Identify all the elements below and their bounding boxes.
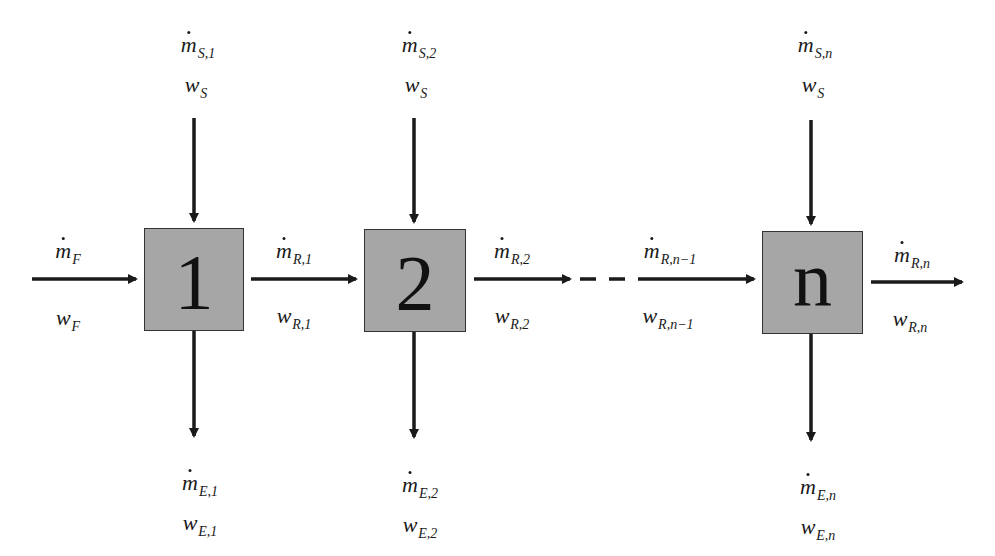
solvent-mass-flow-label-n: mS,n bbox=[798, 34, 832, 56]
extract-mass-flow-label-n: mE,n bbox=[800, 476, 836, 498]
raffinate-fraction-label-n-minus-1: wR,n−1 bbox=[642, 305, 693, 327]
solvent-fraction-label-n: wS bbox=[802, 74, 825, 96]
raffinate-mass-flow-label-n: mR,n bbox=[894, 244, 930, 266]
raffinate-fraction-label-1: wR,1 bbox=[277, 305, 312, 327]
stage-label: 2 bbox=[396, 244, 435, 322]
raffinate-mass-flow-label-1: mR,1 bbox=[276, 240, 312, 262]
extract-fraction-label-2: wE,2 bbox=[403, 514, 438, 536]
stage-label: 1 bbox=[175, 243, 214, 321]
feed-mass-flow-label: mF bbox=[55, 240, 80, 262]
stage-box-2: 2 bbox=[364, 229, 466, 332]
stage-box-n: n bbox=[762, 231, 863, 334]
extract-fraction-label-1: wE,1 bbox=[183, 512, 218, 534]
stage-label: n bbox=[793, 241, 832, 319]
solvent-mass-flow-label-2: mS,2 bbox=[402, 34, 436, 56]
solvent-fraction-label-2: wS bbox=[405, 74, 428, 96]
raffinate-mass-flow-label-n-minus-1: mR,n−1 bbox=[644, 240, 696, 262]
raffinate-fraction-label-n: wR,n bbox=[893, 308, 928, 330]
feed-fraction-label: wF bbox=[56, 307, 80, 329]
extract-fraction-label-n: wE,n bbox=[801, 516, 836, 538]
solvent-mass-flow-label-1: mS,1 bbox=[181, 34, 215, 56]
raffinate-mass-flow-label-2: mR,2 bbox=[494, 240, 530, 262]
solvent-fraction-label-1: wS bbox=[185, 74, 208, 96]
stage-box-1: 1 bbox=[144, 228, 244, 331]
extract-mass-flow-label-1: mE,1 bbox=[182, 472, 218, 494]
extract-mass-flow-label-2: mE,2 bbox=[402, 474, 438, 496]
raffinate-fraction-label-2: wR,2 bbox=[495, 305, 530, 327]
